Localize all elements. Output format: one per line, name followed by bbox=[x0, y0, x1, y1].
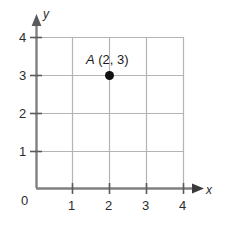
x-tick-label-3: 3 bbox=[142, 199, 149, 212]
x-axis-arrowhead bbox=[192, 184, 204, 194]
y-tick-label-1: 1 bbox=[19, 145, 26, 158]
origin-tick-label: 0 bbox=[21, 194, 28, 207]
grid-and-axes bbox=[0, 0, 226, 226]
point-a-name: A bbox=[86, 52, 95, 67]
point-a-label: A (2, 3) bbox=[86, 53, 129, 66]
x-axis-label: x bbox=[206, 184, 212, 196]
point-a-coords: (2, 3) bbox=[95, 52, 129, 67]
point-a-marker bbox=[105, 71, 114, 80]
x-tick-label-1: 1 bbox=[68, 199, 75, 212]
y-tick-label-2: 2 bbox=[19, 107, 26, 120]
y-axis-label: y bbox=[43, 8, 49, 20]
y-axis-arrowhead bbox=[32, 14, 42, 26]
y-tick-label-3: 3 bbox=[19, 69, 26, 82]
y-tick-label-4: 4 bbox=[19, 31, 26, 44]
x-tick-label-4: 4 bbox=[179, 199, 186, 212]
x-tick-label-2: 2 bbox=[105, 199, 112, 212]
coordinate-plane-figure: y x 0 4 3 2 1 1 2 3 4 A (2, 3) bbox=[0, 0, 226, 226]
